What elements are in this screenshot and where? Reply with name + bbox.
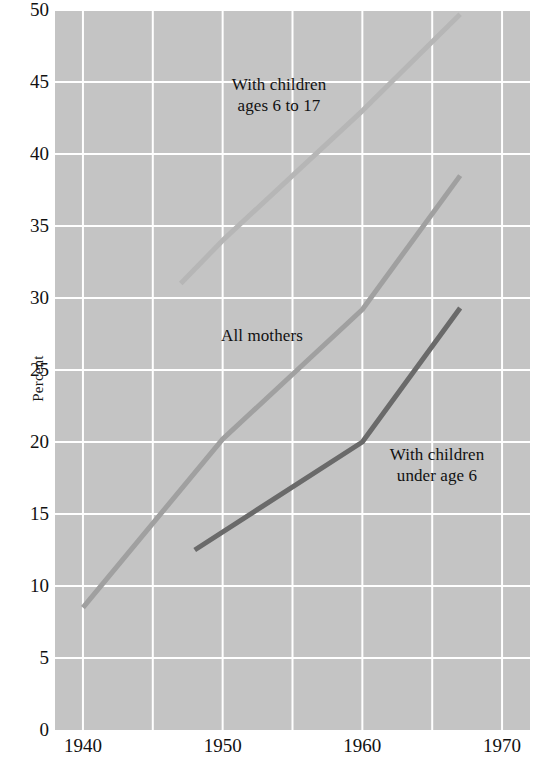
y-axis-tick-label: 5: [5, 648, 49, 667]
y-axis-tick-label: 40: [5, 144, 49, 163]
y-axis-tick-label: 15: [5, 504, 49, 523]
y-axis-tick-label: 35: [5, 216, 49, 235]
x-axis-tick-label: 1960: [317, 736, 407, 755]
x-axis-tick-label: 1950: [178, 736, 268, 755]
chart-figure: 05101520253035404550 1940195019601970 Pe…: [0, 0, 548, 765]
y-axis-tick-label: 50: [5, 0, 49, 19]
series-annotation-ages-6-to-17: With children ages 6 to 17: [232, 75, 327, 116]
series-annotation-all-mothers: All mothers: [221, 326, 303, 347]
x-axis-tick-label: 1940: [38, 736, 128, 755]
y-axis-tick-label: 10: [5, 576, 49, 595]
series-annotation-under-age-6: With children under age 6: [390, 445, 485, 486]
y-axis-tick-label: 30: [5, 288, 49, 307]
x-axis-ticks: 1940195019601970: [0, 736, 548, 765]
x-axis-tick-label: 1970: [457, 736, 547, 755]
y-axis-tick-label: 45: [5, 72, 49, 91]
y-axis-title: Percent: [30, 319, 47, 439]
